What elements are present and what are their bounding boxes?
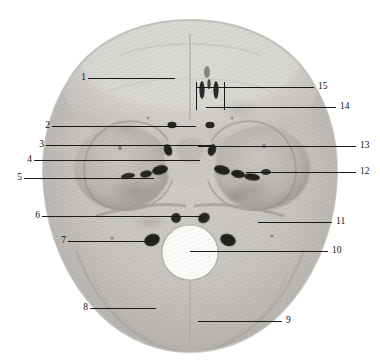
anatomy-figure: 1 2 3 4 5 6 7 8 15 14 13 12 11 10 9 bbox=[0, 0, 380, 362]
label-6: 6 bbox=[35, 211, 40, 221]
skull-base-photograph bbox=[0, 0, 380, 362]
label-3: 3 bbox=[39, 140, 44, 150]
leader-line-14 bbox=[206, 107, 336, 108]
leader-line-12 bbox=[246, 172, 356, 173]
label-5: 5 bbox=[17, 173, 22, 183]
leader-line-9 bbox=[198, 321, 282, 322]
label-14: 14 bbox=[340, 102, 350, 112]
leader-line-10 bbox=[190, 251, 328, 252]
leader-line-13 bbox=[198, 146, 356, 147]
leader-line-15 bbox=[196, 87, 314, 88]
leader-line-2 bbox=[52, 126, 196, 127]
label-4: 4 bbox=[27, 155, 32, 165]
label-12: 12 bbox=[360, 167, 370, 177]
label-2: 2 bbox=[45, 121, 50, 131]
leader-line-8 bbox=[90, 308, 156, 309]
label-8: 8 bbox=[83, 303, 88, 313]
leader-line-7 bbox=[68, 241, 152, 242]
leader-line-11 bbox=[258, 222, 332, 223]
label-13: 13 bbox=[360, 141, 370, 151]
leader-line-4 bbox=[34, 160, 200, 161]
label-9: 9 bbox=[286, 316, 291, 326]
leader-line-6 bbox=[42, 216, 206, 217]
leader-line-1 bbox=[88, 78, 175, 79]
leader-line-5 bbox=[24, 178, 154, 179]
leader-line-3 bbox=[46, 145, 214, 146]
leader-tick-15-right bbox=[224, 82, 225, 110]
label-7: 7 bbox=[61, 236, 66, 246]
leader-tick-15-left bbox=[196, 82, 197, 110]
label-11: 11 bbox=[336, 217, 345, 227]
label-15: 15 bbox=[318, 82, 328, 92]
label-10: 10 bbox=[332, 246, 342, 256]
label-1: 1 bbox=[81, 73, 86, 83]
